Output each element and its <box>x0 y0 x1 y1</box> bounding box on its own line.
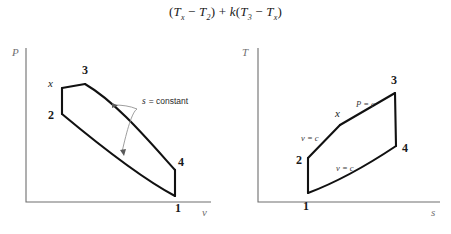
pv-state-label-2: 2 <box>48 108 54 122</box>
pv-state-label-1: 1 <box>175 201 181 215</box>
pressure-volume-diagram: P v x 3 2 4 1 s= constant <box>6 40 226 220</box>
s-constant-arrowhead-lower <box>120 149 126 156</box>
temperature-entropy-diagram: T s 3 x 2 4 1 P = c v = c v = c <box>228 40 450 220</box>
ts-state-label-x: x <box>334 107 340 119</box>
ts-process-label-constant-volume-lower: v = c <box>336 163 354 173</box>
equation-paren-close: ) <box>211 4 216 19</box>
ts-y-axis-label: T <box>242 46 249 58</box>
pv-state-label-x: x <box>47 77 53 89</box>
ts-state-label-4: 4 <box>402 141 408 155</box>
process-3-to-4-isentropic-expansion <box>395 93 396 146</box>
ts-state-label-3: 3 <box>391 73 397 87</box>
equation-term-T3: T <box>240 4 247 19</box>
equation-term-T2: T <box>199 4 206 19</box>
pv-axes <box>26 48 211 202</box>
equation-term-Tx-subscript: x <box>181 13 185 22</box>
equation-minus-2: − <box>255 4 263 19</box>
ts-axes <box>258 48 440 202</box>
thermodynamic-cycle-figure: (Tx − T2) + k(T3 − Tx) P v x <box>0 0 451 234</box>
equation-term-Tx-2: T <box>266 4 273 19</box>
pv-annotation-s-text: = constant <box>149 96 189 106</box>
pv-annotation-s-constant: s= constant <box>142 96 189 106</box>
pv-annotation-s-symbol: s <box>142 96 146 106</box>
pv-x-axis-label: v <box>202 206 207 218</box>
pv-state-label-4: 4 <box>178 155 184 169</box>
equation-term-Tx: T <box>173 4 180 19</box>
ts-x-axis-label: s <box>431 206 435 218</box>
process-1-to-2-isentropic-compression <box>62 114 175 196</box>
equation-minus-1: − <box>188 4 196 19</box>
ts-state-label-1: 1 <box>303 199 309 213</box>
equation-paren-close-2: ) <box>278 4 283 19</box>
equation-term-T3-subscript: 3 <box>248 13 252 22</box>
pv-state-label-3: 3 <box>82 63 88 77</box>
ts-process-label-constant-pressure: P = c <box>355 99 375 109</box>
ts-state-label-2: 2 <box>296 153 302 167</box>
ts-process-label-constant-volume-upper: v = c <box>301 133 319 143</box>
equation-expression: (Tx − T2) + k(T3 − Tx) <box>0 4 451 22</box>
process-x-to-3-constant-pressure <box>62 84 85 88</box>
pv-y-axis-label: P <box>11 46 19 58</box>
equation-plus: + <box>219 4 227 19</box>
process-x-to-3-constant-pressure <box>340 93 395 125</box>
